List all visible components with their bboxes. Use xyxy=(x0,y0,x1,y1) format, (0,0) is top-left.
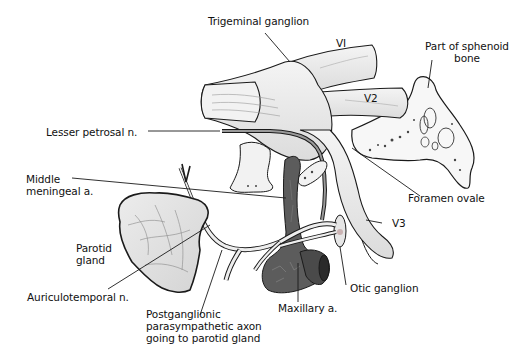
label-otic-ganglion: Otic ganglion xyxy=(350,282,418,294)
label-middle-meningeal-line1: Middle xyxy=(26,173,93,185)
leader-postganglionic xyxy=(200,250,222,315)
parotid-gland xyxy=(119,193,209,292)
label-parotid-line2: gland xyxy=(76,254,112,266)
label-parotid-gland: Parotid gland xyxy=(76,242,112,266)
label-lesser-petrosal-nerve: Lesser petrosal n. xyxy=(46,126,137,138)
label-auriculotemporal-nerve: Auriculotemporal n. xyxy=(27,291,129,303)
label-sphenoid-line1: Part of sphenoid xyxy=(414,40,520,52)
label-postganglionic-axon: Postganglionic parasympathetic axon goin… xyxy=(146,308,262,344)
label-v1: VI xyxy=(336,37,346,49)
label-parotid-line1: Parotid xyxy=(76,242,112,254)
label-maxillary-artery: Maxillary a. xyxy=(278,302,337,314)
label-trigeminal-ganglion: Trigeminal ganglion xyxy=(208,15,309,27)
label-postganglionic-line2: parasympathetic axon xyxy=(146,320,262,332)
label-sphenoid-line2: bone xyxy=(414,52,520,64)
leader-otic-ganglion xyxy=(340,247,346,285)
label-v3: V3 xyxy=(392,217,406,229)
diagram-canvas: Trigeminal ganglion VI V2 Part of spheno… xyxy=(0,0,525,364)
label-foramen-ovale: Foramen ovale xyxy=(408,192,485,204)
label-middle-meningeal-line2: meningeal a. xyxy=(26,185,93,197)
label-postganglionic-line3: going to parotid gland xyxy=(146,332,262,344)
label-middle-meningeal-artery: Middle meningeal a. xyxy=(26,173,93,197)
label-postganglionic-line1: Postganglionic xyxy=(146,308,262,320)
label-v2: V2 xyxy=(364,92,378,104)
label-sphenoid-bone: Part of sphenoid bone xyxy=(414,40,520,64)
leader-trigeminal-ganglion xyxy=(265,33,290,62)
otic-ganglion xyxy=(334,215,346,247)
